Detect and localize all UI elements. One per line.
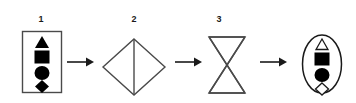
circle-filled-icon [315, 68, 330, 82]
arrow-3-icon [259, 55, 289, 69]
panel-2-diamond-group [100, 36, 168, 98]
square-filled-icon [35, 51, 50, 64]
circle-filled-icon [35, 66, 50, 80]
arrow-1-icon [66, 55, 96, 69]
square-filled-icon [315, 53, 330, 66]
arrow-2-icon [174, 55, 204, 69]
panel-3-hourglass-group [204, 33, 250, 97]
shape-sequence-diagram: 1 2 3 [0, 0, 356, 103]
panel-4-ellipse-group [298, 32, 346, 98]
step-label-2: 2 [124, 14, 144, 24]
step-label-3: 3 [209, 14, 229, 24]
panel-1-rectangle-group [18, 28, 66, 96]
step-label-1: 1 [31, 14, 51, 24]
